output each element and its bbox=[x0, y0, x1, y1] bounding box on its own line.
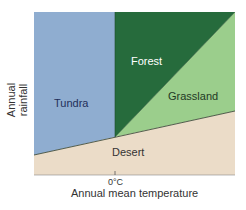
grassland-label: Grassland bbox=[168, 90, 218, 102]
forest-label: Forest bbox=[131, 55, 162, 67]
x-axis-label: Annual mean temperature bbox=[71, 187, 198, 199]
y-axis-label: Annual rainfall bbox=[5, 67, 29, 133]
x-tick-label: 0°C bbox=[108, 177, 123, 187]
tundra-label: Tundra bbox=[54, 97, 88, 109]
desert-label: Desert bbox=[112, 146, 144, 158]
tundra-region bbox=[34, 12, 115, 155]
